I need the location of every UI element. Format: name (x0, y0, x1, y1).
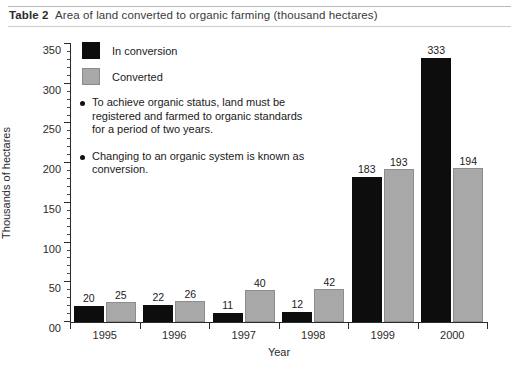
y-tick-minor (67, 99, 70, 100)
x-tick-label-1996: 1996 (162, 329, 186, 341)
x-axis-title: Year (268, 346, 290, 358)
caption-rule-bottom (8, 26, 511, 27)
annotation-item: To achieve organic status, land must be … (80, 96, 312, 137)
x-tick-label-1997: 1997 (232, 329, 256, 341)
y-tick-minor (67, 297, 70, 298)
y-tick-minor (67, 210, 70, 211)
bar-1995-converted: 25 (106, 302, 136, 322)
bar-value-label: 40 (254, 277, 266, 289)
y-tick-major (64, 122, 70, 123)
annotation-text: Changing to an organic system is known a… (92, 150, 312, 177)
y-tick-major (64, 242, 70, 243)
y-tick-minor (67, 154, 70, 155)
bar-value-label: 26 (184, 288, 196, 300)
bar-1995-in-conversion: 20 (74, 306, 104, 322)
bar-1998-converted: 42 (314, 289, 344, 322)
legend-swatch-icon (82, 68, 100, 85)
bar-chart: Thousands of hectares Year 0050100150200… (0, 28, 519, 369)
bar-value-label: 194 (459, 155, 477, 167)
y-tick-minor (67, 250, 70, 251)
bar-1999-in-conversion: 183 (352, 177, 382, 322)
bar-1999-converted: 193 (384, 169, 414, 322)
legend-item-in-conversion: In conversion (82, 42, 177, 59)
bar-value-label: 42 (323, 276, 335, 288)
y-tick-major (64, 202, 70, 203)
annotation-list: To achieve organic status, land must be … (80, 96, 312, 190)
y-tick-major (64, 43, 70, 44)
x-tick-label-2000: 2000 (440, 329, 464, 341)
x-tick (418, 323, 419, 329)
y-tick-major (64, 321, 70, 322)
x-tick (279, 323, 280, 329)
caption-text: Area of land converted to organic farmin… (48, 9, 377, 21)
y-tick-major (64, 162, 70, 163)
bar-1997-converted: 40 (245, 290, 275, 322)
bar-value-label: 25 (115, 289, 127, 301)
y-tick-minor (67, 226, 70, 227)
y-tick-minor (67, 107, 70, 108)
caption-label: Table 2 (9, 9, 48, 21)
legend-swatch-icon (82, 42, 100, 59)
y-tick-minor (67, 265, 70, 266)
x-tick (140, 323, 141, 329)
y-tick-major (64, 83, 70, 84)
x-tick-label-1999: 1999 (371, 329, 395, 341)
bullet-icon (80, 101, 85, 106)
legend-item-converted: Converted (82, 68, 177, 85)
y-tick-major (64, 281, 70, 282)
y-tick-minor (67, 273, 70, 274)
y-tick-minor (67, 59, 70, 60)
bar-value-label: 333 (427, 44, 445, 56)
chart-legend: In conversionConverted (82, 42, 177, 94)
bar-1996-in-conversion: 22 (143, 305, 173, 322)
y-tick-minor (67, 305, 70, 306)
y-tick-minor (67, 194, 70, 195)
y-tick-minor (67, 313, 70, 314)
y-tick-minor (67, 51, 70, 52)
y-tick-minor (67, 257, 70, 258)
bar-value-label: 20 (83, 292, 95, 304)
annotation-item: Changing to an organic system is known a… (80, 150, 312, 177)
legend-label: In conversion (112, 45, 177, 57)
caption-rule-top (8, 6, 511, 7)
y-tick-minor (67, 146, 70, 147)
y-tick-minor (67, 178, 70, 179)
table-caption: Table 2 Area of land converted to organi… (9, 9, 378, 21)
y-tick-minor (67, 115, 70, 116)
y-tick-minor (67, 75, 70, 76)
x-tick (487, 323, 488, 329)
y-tick-minor (67, 218, 70, 219)
y-tick-minor (67, 138, 70, 139)
bar-value-label: 22 (152, 291, 164, 303)
y-axis-title: Thousands of hectares (0, 127, 12, 239)
legend-label: Converted (112, 71, 163, 83)
y-tick-minor (67, 91, 70, 92)
bar-2000-in-conversion: 333 (421, 58, 451, 322)
y-tick-minor (67, 234, 70, 235)
bullet-icon (80, 155, 85, 160)
x-tick-label-1998: 1998 (301, 329, 325, 341)
y-tick-minor (67, 67, 70, 68)
bar-value-label: 11 (222, 299, 233, 311)
bar-1996-converted: 26 (175, 301, 205, 322)
bar-value-label: 193 (390, 156, 408, 168)
bar-value-label: 12 (291, 298, 303, 310)
y-tick-minor (67, 186, 70, 187)
bar-1998-in-conversion: 12 (282, 312, 312, 322)
x-tick (209, 323, 210, 329)
x-tick (348, 323, 349, 329)
bar-value-label: 183 (358, 163, 376, 175)
y-tick-minor (67, 130, 70, 131)
y-tick-minor (67, 170, 70, 171)
bar-2000-converted: 194 (453, 168, 483, 322)
bar-1997-in-conversion: 11 (213, 313, 243, 322)
x-tick-label-1995: 1995 (93, 329, 117, 341)
annotation-text: To achieve organic status, land must be … (92, 96, 312, 137)
y-tick-minor (67, 289, 70, 290)
x-tick (70, 323, 71, 329)
